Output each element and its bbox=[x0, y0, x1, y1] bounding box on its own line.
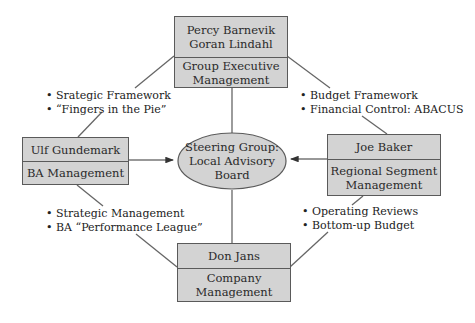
edge-top-right-lower bbox=[362, 116, 387, 134]
edge-top-right-upper bbox=[287, 56, 330, 88]
node-company-management: Don Jans Company Management bbox=[177, 243, 291, 302]
node-regional-segment: Joe Baker Regional Segment Management bbox=[327, 134, 441, 196]
annotation-item: Strategic Management bbox=[46, 207, 203, 221]
node-group-executive: Percy Barnevik Goran Lindahl Group Execu… bbox=[174, 16, 288, 88]
node-role: Regional Segment Management bbox=[328, 159, 440, 195]
annotation-item: Operating Reviews bbox=[302, 205, 418, 219]
node-role: BA Management bbox=[23, 161, 128, 184]
node-person: Percy Barnevik Goran Lindahl bbox=[175, 17, 287, 57]
annotation-item: Budget Framework bbox=[300, 89, 463, 103]
edge-bottom-right-upper bbox=[352, 196, 363, 205]
annotation-bottom-right: Operating Reviews Bottom-up Budget bbox=[302, 205, 418, 233]
edge-top-left-upper bbox=[135, 56, 174, 88]
steering-group-label: Steering Group: Local Advisory Board bbox=[178, 133, 286, 189]
node-person: Don Jans bbox=[178, 244, 290, 268]
node-person: Ulf Gundemark bbox=[23, 138, 128, 161]
annotation-item: Srategic Framework bbox=[46, 89, 171, 103]
annotation-item: “Fingers in the Pie” bbox=[46, 103, 171, 117]
annotation-item: Financial Control: ABACUS bbox=[300, 103, 463, 117]
node-person: Joe Baker bbox=[328, 135, 440, 159]
annotation-top-right: Budget Framework Financial Control: ABAC… bbox=[300, 89, 463, 117]
annotation-top-left: Srategic Framework “Fingers in the Pie” bbox=[46, 89, 171, 117]
node-role: Group Executive Management bbox=[175, 57, 287, 87]
annotation-item: BA “Performance League” bbox=[46, 221, 203, 235]
edge-bottom-left-lower bbox=[136, 234, 177, 267]
node-role: Company Management bbox=[178, 268, 290, 301]
edge-bottom-right-lower bbox=[290, 232, 328, 267]
edge-bottom-left-upper bbox=[77, 185, 103, 206]
node-ba-management: Ulf Gundemark BA Management bbox=[22, 137, 129, 185]
annotation-bottom-left: Strategic Management BA “Performance Lea… bbox=[46, 207, 203, 235]
annotation-item: Bottom-up Budget bbox=[302, 219, 418, 233]
